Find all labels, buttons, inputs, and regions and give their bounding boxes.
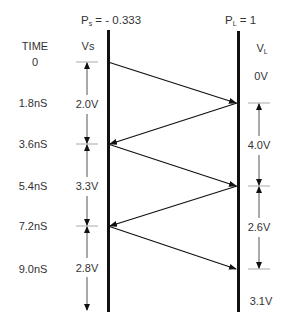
load-voltage-label: 4.0V [248, 139, 271, 151]
load-voltage-dimensions [248, 103, 270, 269]
wave-path [108, 62, 237, 269]
load-voltage-label: 2.6V [248, 221, 271, 233]
source-voltage-label: 2.8V [76, 262, 99, 274]
time-column-title: TIME [22, 40, 48, 52]
source-voltage-label: 2.0V [76, 98, 99, 110]
source-voltage-label: 3.3V [76, 180, 99, 192]
source-reflection-label: Ps = - 0.333 [81, 14, 141, 30]
bounce-diagram: Ps = - 0.333 PL = 1 TIME Vs VL 0 1.8nS 3… [0, 0, 284, 325]
time-label: 7.2nS [19, 220, 48, 232]
load-reflection-label: PL = 1 [225, 14, 256, 30]
time-label: 0 [32, 56, 38, 68]
time-label: 1.8nS [19, 97, 48, 109]
time-label: 5.4nS [19, 180, 48, 192]
load-voltage-label: 0V [254, 70, 267, 82]
time-label: 9.0nS [19, 263, 48, 275]
vs-column-title: Vs [82, 40, 95, 52]
vl-column-title: VL [256, 42, 267, 58]
load-voltage-label: 3.1V [250, 295, 273, 307]
time-label: 3.6nS [19, 138, 48, 150]
